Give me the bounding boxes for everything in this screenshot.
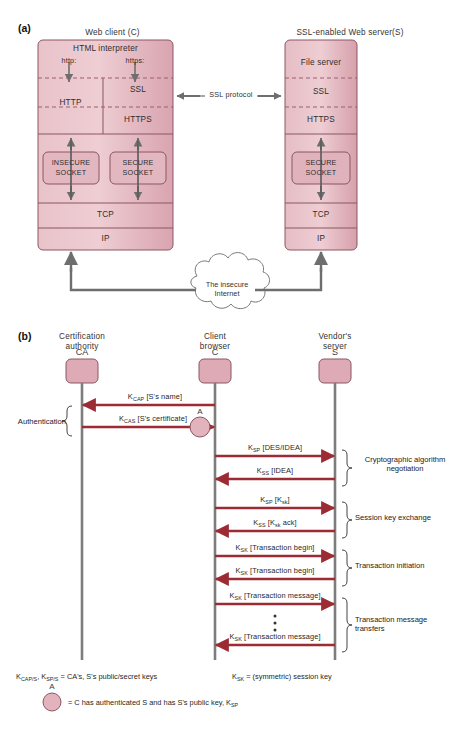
message-label-4: KSP [Ksk]: [215, 495, 335, 505]
legend-a-symbol: A: [42, 682, 62, 702]
message-label-0: KCAP [S's name]: [95, 392, 215, 402]
legend-session-key: KSK = (symmetric) session key: [232, 672, 332, 682]
message-label-9: KSK [Transaction message]: [212, 632, 338, 642]
message-label-7: KSK [Transaction begin]: [215, 566, 335, 576]
message-label-5: KSS [Ksk ack]: [215, 518, 335, 528]
actor-ca-symbol: CA: [66, 347, 98, 371]
legend-keys: KCAP/S, KSP/S = CA's, S's public/secret …: [16, 672, 157, 682]
phase-label-2-line1: Transaction initiation: [355, 561, 455, 571]
message-label-6: KSK [Transaction begin]: [215, 543, 335, 553]
actor-server-symbol: S: [319, 347, 351, 371]
authentication-brace-label: Authentication: [8, 417, 66, 427]
legend-a-meaning: = C has authenticated S and has S's publ…: [68, 698, 238, 708]
phase-label-3-line2: transfers: [355, 624, 455, 634]
actor-client-symbol: C: [199, 347, 231, 371]
message-label-3: KSS [IDEA]: [215, 466, 335, 476]
phase-label-0-line2: negotiation: [355, 464, 455, 474]
phase-label-1-line1: Session key exchange: [355, 513, 455, 523]
figure-canvas: (a) Web client (C) SSL-enabled Web serve…: [0, 0, 460, 730]
message-label-8: KSK [Transaction message]: [212, 591, 338, 601]
message-label-2: KSP [DES/IDEA]: [215, 443, 335, 453]
message-label-1: KCAS [S's certificate]: [88, 414, 218, 424]
